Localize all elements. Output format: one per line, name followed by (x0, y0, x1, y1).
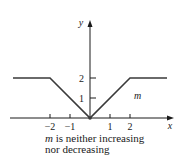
y-tick-label-2: 2 (79, 73, 84, 84)
origin-point (88, 116, 92, 120)
curve-label-m: m (134, 90, 141, 101)
y-tick-label-1: 1 (79, 93, 84, 104)
x-axis-label: x (167, 120, 173, 131)
y-axis-label: y (78, 17, 84, 28)
x-tick-label-neg1: −1 (65, 121, 76, 132)
caption-line-2: nor decreasing (45, 144, 144, 155)
x-tick-label-neg2: −2 (45, 121, 56, 132)
caption: m is neither increasing nor decreasing (45, 133, 144, 155)
x-tick-label-1: 1 (108, 121, 113, 132)
y-axis-arrow-icon (88, 20, 93, 27)
x-tick-label-2: 2 (128, 121, 133, 132)
